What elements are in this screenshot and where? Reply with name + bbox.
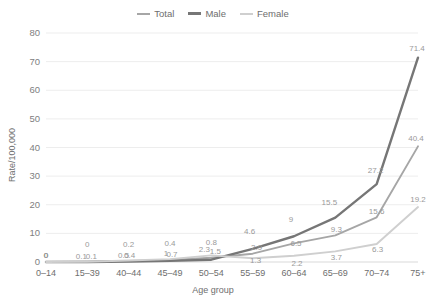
data-label-female: 6.3 <box>372 245 383 254</box>
y-tick-label: 60 <box>12 84 40 95</box>
y-tick-label: 70 <box>12 56 40 67</box>
y-tick-label: 80 <box>12 27 40 38</box>
series-lines <box>46 58 418 262</box>
data-label-total: 2.9 <box>251 243 262 252</box>
data-label-female: 0.5 <box>118 251 129 260</box>
series-line-total <box>46 146 418 262</box>
series-line-male <box>46 58 418 262</box>
data-label-male: 9 <box>289 215 293 224</box>
data-label-male: 71.4 <box>409 44 425 53</box>
chart-container: Total Male Female Rate/100,000 Age group… <box>0 0 426 300</box>
data-label-male: 0.4 <box>164 239 175 248</box>
data-label-female: 2.2 <box>291 259 302 268</box>
y-tick-label: 0 <box>12 256 40 267</box>
data-label-female: 3.7 <box>331 253 342 262</box>
data-label-female: 1 <box>164 249 168 258</box>
data-label-total: 0.1 <box>86 252 97 261</box>
data-label-female: 2.3 <box>199 245 210 254</box>
y-tick-label: 40 <box>12 142 40 153</box>
data-label-total: 6.5 <box>290 239 301 248</box>
data-label-male: 0.2 <box>123 240 134 249</box>
data-label-male: 0 <box>85 240 89 249</box>
y-tick-label: 10 <box>12 227 40 238</box>
data-label-male: 27.2 <box>368 166 384 175</box>
data-label-total: 15.6 <box>369 207 385 216</box>
y-tick-label: 20 <box>12 199 40 210</box>
data-label-male: 15.5 <box>322 198 338 207</box>
data-label-female: 1.3 <box>250 256 261 265</box>
gridlines <box>46 33 418 262</box>
data-label-total: 1.5 <box>210 247 221 256</box>
data-label-total: 40.4 <box>408 134 424 143</box>
data-label-female: 0.1 <box>76 252 87 261</box>
data-label-female: 19.2 <box>410 195 426 204</box>
y-tick-label: 30 <box>12 170 40 181</box>
x-tick-label: 75+ <box>393 268 426 278</box>
y-tick-label: 50 <box>12 113 40 124</box>
data-label-total: 9.3 <box>331 225 342 234</box>
data-label-female: 0 <box>44 251 48 260</box>
data-label-male: 4.6 <box>244 227 255 236</box>
